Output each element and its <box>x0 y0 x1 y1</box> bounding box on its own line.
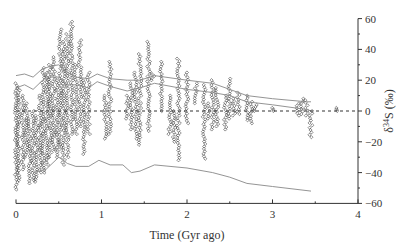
data-point <box>88 123 91 126</box>
data-point <box>75 133 78 136</box>
scatter-points <box>13 20 339 191</box>
y-tick-label: −40 <box>365 167 383 179</box>
data-point <box>73 98 76 101</box>
data-point <box>238 112 241 115</box>
x-tick-label: 4 <box>355 208 361 220</box>
y-tick-label: −60 <box>365 197 383 209</box>
data-point <box>88 133 91 136</box>
data-point <box>139 102 142 105</box>
x-tick-label: 0 <box>13 208 19 220</box>
data-point <box>306 104 309 107</box>
envelope-line <box>33 157 311 191</box>
data-point <box>60 136 63 139</box>
x-tick-label: 3 <box>270 208 276 220</box>
chart: 01234 6040200−20−40−60 Time (Gyr ago) δ3… <box>0 0 406 247</box>
data-point <box>63 62 66 65</box>
x-tick-label: 1 <box>99 208 105 220</box>
data-point <box>64 141 67 144</box>
data-point <box>135 91 138 94</box>
data-point <box>311 124 314 127</box>
y-tick-label: 40 <box>365 43 377 55</box>
data-point <box>64 37 67 40</box>
data-point <box>140 106 143 109</box>
data-point <box>193 87 196 90</box>
data-point <box>304 114 307 117</box>
x-tick-label: 2 <box>184 208 190 220</box>
x-axis: 01234 <box>13 199 361 220</box>
y-tick-label: 20 <box>365 74 377 86</box>
y-tick-label: 60 <box>365 13 377 25</box>
data-point <box>175 57 178 60</box>
data-point <box>125 94 128 97</box>
data-point <box>231 114 234 117</box>
data-point <box>40 171 43 174</box>
y-tick-label: 0 <box>365 105 371 117</box>
y-axis-title: δ34S(‰) <box>382 89 397 132</box>
data-point <box>71 20 74 23</box>
data-point <box>178 121 181 124</box>
y-tick-label: −20 <box>365 136 383 148</box>
data-point <box>69 23 72 26</box>
data-point <box>65 32 68 35</box>
y-axis: 6040200−20−40−60 <box>358 13 383 210</box>
data-point <box>148 124 151 127</box>
data-point <box>58 148 61 151</box>
data-point <box>138 104 141 107</box>
x-axis-title: Time (Gyr ago) <box>150 228 225 242</box>
